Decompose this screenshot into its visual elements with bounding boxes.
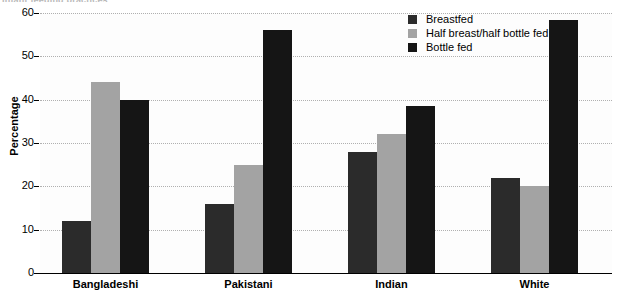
bar bbox=[549, 20, 578, 274]
legend-swatch-icon bbox=[408, 43, 417, 52]
bar bbox=[205, 204, 234, 273]
legend-swatch-icon bbox=[408, 29, 417, 38]
bar bbox=[377, 134, 406, 273]
y-axis-tick-mark bbox=[34, 13, 39, 14]
bar-group bbox=[205, 13, 292, 273]
legend-label: Half breast/half bottle fed bbox=[426, 27, 548, 39]
y-axis-tick-mark bbox=[34, 100, 39, 101]
x-axis-category-label: White bbox=[466, 278, 603, 290]
y-axis-tick-label: 0 bbox=[4, 267, 34, 278]
legend-item: Breastfed bbox=[408, 13, 548, 25]
y-axis-tick-label: 60 bbox=[4, 7, 34, 18]
y-axis-tick-label: 50 bbox=[4, 50, 34, 61]
x-axis-category-label: Pakistani bbox=[180, 278, 317, 290]
x-axis-category-label: Bangladeshi bbox=[37, 278, 174, 290]
y-axis-tick-label: 10 bbox=[4, 224, 34, 235]
bar bbox=[120, 100, 149, 273]
bar bbox=[520, 186, 549, 273]
y-axis-tick-mark bbox=[34, 143, 39, 144]
legend: BreastfedHalf breast/half bottle fedBott… bbox=[408, 13, 548, 55]
y-axis-tick-mark bbox=[34, 56, 39, 57]
bar bbox=[348, 152, 377, 273]
clipped-title: Infant feeding practices bbox=[2, 0, 108, 2]
y-axis-label: Percentage bbox=[8, 81, 20, 171]
legend-item: Bottle fed bbox=[408, 41, 548, 53]
legend-swatch-icon bbox=[408, 15, 417, 24]
bar bbox=[406, 106, 435, 273]
y-axis-tick-mark bbox=[34, 230, 39, 231]
bar bbox=[491, 178, 520, 273]
x-axis-line bbox=[34, 273, 612, 274]
y-axis-tick-mark bbox=[34, 186, 39, 187]
bar-chart: Infant feeding practices 0102030405060 P… bbox=[0, 0, 620, 296]
legend-label: Bottle fed bbox=[426, 41, 472, 53]
x-axis-category-label: Indian bbox=[323, 278, 460, 290]
bar bbox=[234, 165, 263, 273]
bar-group bbox=[62, 13, 149, 273]
bar bbox=[91, 82, 120, 273]
legend-item: Half breast/half bottle fed bbox=[408, 27, 548, 39]
bar bbox=[62, 221, 91, 273]
bar bbox=[263, 30, 292, 273]
y-axis-tick-label: 20 bbox=[4, 180, 34, 191]
legend-label: Breastfed bbox=[426, 13, 473, 25]
